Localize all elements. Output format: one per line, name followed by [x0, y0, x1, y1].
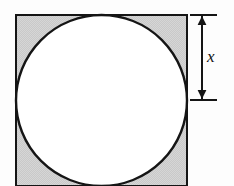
dimension-arrowhead-bottom	[198, 90, 207, 99]
geometry-figure: x	[0, 0, 234, 186]
figure-canvas: x	[0, 0, 234, 186]
dimension-label-x: x	[206, 47, 215, 66]
dimension-arrowhead-top	[198, 16, 207, 25]
inscribed-circle	[16, 15, 187, 186]
